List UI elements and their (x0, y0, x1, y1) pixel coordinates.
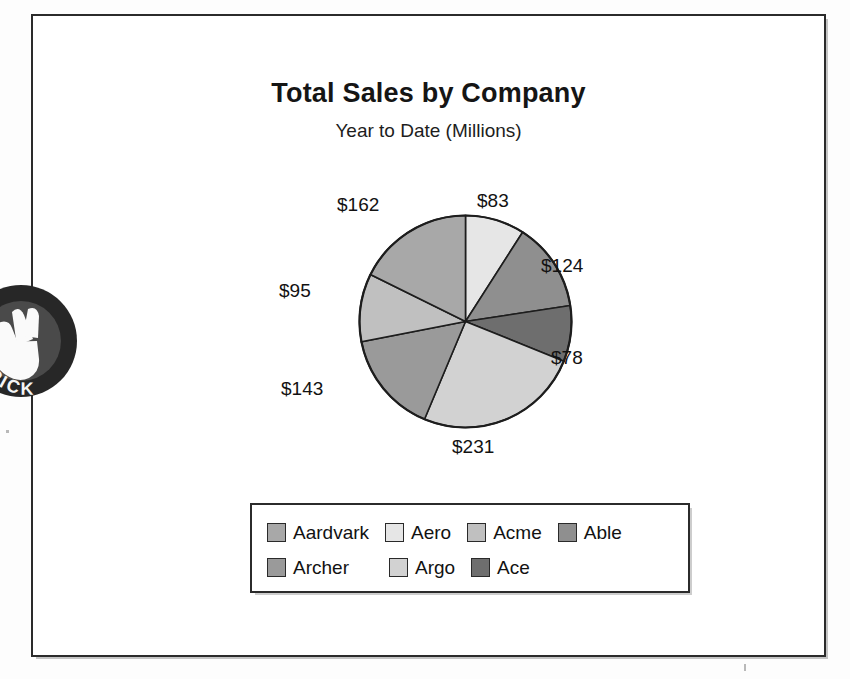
legend-label: Archer (293, 557, 349, 579)
legend-item-acme[interactable]: Acme (467, 522, 542, 544)
legend-swatch-icon (385, 523, 404, 542)
figure-frame: Total Sales by Company Year to Date (Mil… (31, 14, 826, 657)
slice-label-argo: $231 (452, 436, 494, 458)
pie-chart (358, 214, 573, 429)
slice-label-aero: $83 (477, 190, 509, 212)
legend-swatch-icon (467, 523, 486, 542)
pie-chart-svg (358, 214, 573, 429)
chart-legend: Aardvark Aero Acme Able Arche (250, 503, 690, 593)
legend-row: Aardvark Aero Acme Able (252, 515, 688, 550)
legend-item-ace[interactable]: Ace (471, 557, 530, 579)
page-subtitle: Year to Date (Millions) (33, 120, 824, 142)
scan-speck (6, 430, 9, 433)
legend-item-able[interactable]: Able (558, 522, 622, 544)
legend-label: Aardvark (293, 522, 369, 544)
slice-label-able: $124 (541, 255, 583, 277)
legend-item-archer[interactable]: Archer (267, 557, 349, 579)
legend-swatch-icon (389, 558, 408, 577)
legend-swatch-icon (267, 523, 286, 542)
scan-speck (744, 664, 746, 671)
page-canvas: Total Sales by Company Year to Date (Mil… (0, 0, 850, 679)
legend-swatch-icon (558, 523, 577, 542)
legend-item-aardvark[interactable]: Aardvark (267, 522, 369, 544)
legend-label: Acme (493, 522, 542, 544)
page-title: Total Sales by Company (33, 78, 824, 109)
legend-label: Argo (415, 557, 455, 579)
slice-label-ace: $78 (551, 347, 583, 369)
legend-label: Aero (411, 522, 451, 544)
slice-label-aardvark: $162 (337, 194, 379, 216)
legend-label: Able (584, 522, 622, 544)
legend-swatch-icon (471, 558, 490, 577)
legend-swatch-icon (267, 558, 286, 577)
stamp-logo-icon: S RICK (0, 276, 80, 406)
legend-item-argo[interactable]: Argo (389, 557, 455, 579)
slice-label-acme: $95 (279, 280, 311, 302)
legend-label: Ace (497, 557, 530, 579)
slice-label-archer: $143 (281, 378, 323, 400)
stamp-logo: S RICK (0, 276, 80, 406)
legend-row: Archer Argo Ace (252, 550, 688, 585)
legend-item-aero[interactable]: Aero (385, 522, 451, 544)
